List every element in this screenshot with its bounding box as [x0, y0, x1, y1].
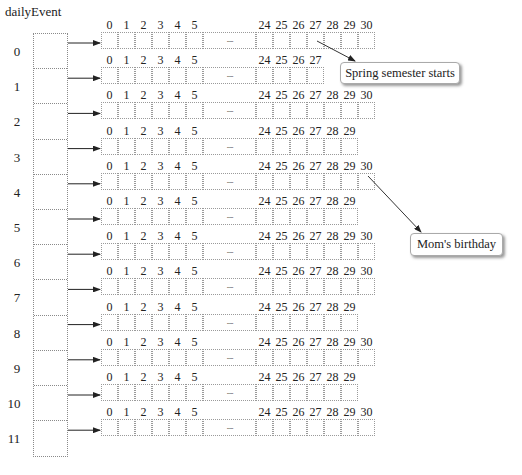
arrows-layer	[0, 0, 522, 475]
arrow-to-birthday-callout	[368, 176, 421, 232]
arrow-to-spring-callout	[317, 41, 355, 61]
